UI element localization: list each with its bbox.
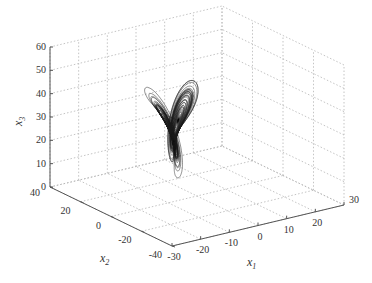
svg-text:20: 20 — [312, 217, 322, 228]
x3-axis-label: x3 — [11, 117, 27, 127]
svg-text:60: 60 — [36, 41, 46, 52]
svg-text:-10: -10 — [225, 237, 238, 248]
svg-text:30: 30 — [349, 194, 359, 205]
svg-text:20: 20 — [36, 134, 46, 145]
svg-text:-40: -40 — [149, 249, 162, 260]
x2-axis-label: x2 — [99, 251, 109, 267]
svg-text:0: 0 — [41, 181, 46, 192]
svg-text:50: 50 — [36, 64, 46, 75]
svg-text:40: 40 — [36, 88, 46, 99]
figure: -30-20-100102030-40-20020400102030405060… — [0, 0, 372, 283]
x1-axis-label: x1 — [246, 255, 256, 271]
svg-text:-30: -30 — [167, 251, 180, 262]
3d-plot: -30-20-100102030-40-20020400102030405060… — [0, 0, 372, 283]
svg-text:0: 0 — [258, 231, 263, 242]
svg-text:20: 20 — [61, 205, 71, 216]
svg-text:-20: -20 — [196, 244, 209, 255]
svg-text:40: 40 — [30, 187, 40, 198]
svg-text:30: 30 — [36, 111, 46, 122]
svg-text:10: 10 — [284, 224, 294, 235]
svg-text:10: 10 — [36, 158, 46, 169]
svg-text:0: 0 — [96, 220, 101, 231]
tick-labels: -30-20-100102030-40-20020400102030405060 — [30, 41, 359, 262]
svg-text:-20: -20 — [118, 234, 131, 245]
grid-lines — [50, 6, 344, 246]
attractor-trajectory — [145, 80, 199, 177]
